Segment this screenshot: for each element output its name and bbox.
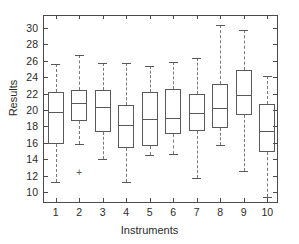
y-tick-label: 22 (26, 88, 38, 100)
x-tick-label: 7 (194, 206, 200, 218)
y-tick-label: 26 (26, 55, 38, 67)
plot-area: 1012141618202224262830 12345678910 + (43, 15, 278, 203)
y-tick-label: 24 (26, 71, 38, 83)
box-plot-item (44, 16, 277, 202)
median-line (259, 131, 275, 132)
y-tick-label: 14 (26, 153, 38, 165)
y-tick-label: 10 (26, 186, 38, 198)
whisker-cap-lower (263, 197, 272, 198)
y-tick-label: 20 (26, 104, 38, 116)
x-tick-label: 1 (53, 206, 59, 218)
box-iqr (259, 104, 275, 152)
x-tick-label: 10 (261, 206, 273, 218)
x-tick-label: 5 (147, 206, 153, 218)
boxplot-figure: Results Instruments 10121416182022242628… (0, 0, 299, 244)
y-axis-label: Results (7, 63, 19, 133)
y-tick-label: 16 (26, 137, 38, 149)
whisker-lower (267, 152, 268, 197)
whisker-cap-upper (263, 76, 272, 77)
x-tick-label: 2 (76, 206, 82, 218)
x-axis-label: Instruments (0, 224, 299, 236)
y-tick-label: 28 (26, 38, 38, 50)
y-tick-label: 30 (26, 22, 38, 34)
x-tick-label: 9 (241, 206, 247, 218)
whisker-upper (267, 76, 268, 104)
x-tick-label: 8 (217, 206, 223, 218)
y-tick-label: 12 (26, 170, 38, 182)
y-tick-label: 18 (26, 120, 38, 132)
x-tick-label: 4 (123, 206, 129, 218)
x-tick-label: 6 (170, 206, 176, 218)
x-tick-label: 3 (100, 206, 106, 218)
